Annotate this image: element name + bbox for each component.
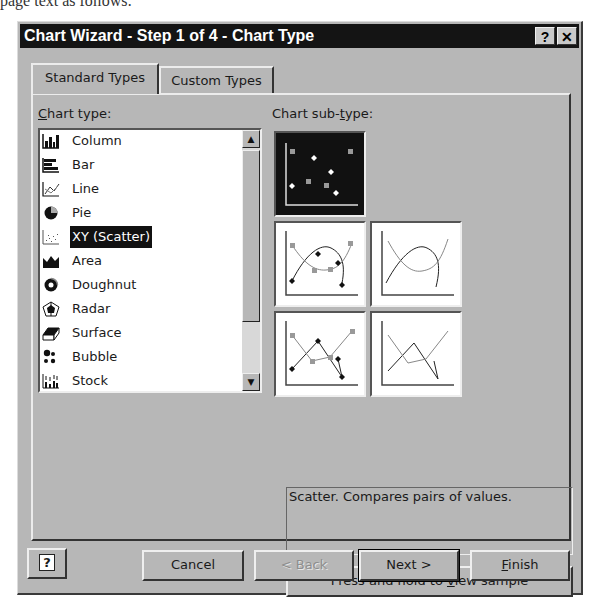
chart-wizard-dialog: Chart Wizard - Step 1 of 4 - Chart Type … xyxy=(17,21,583,595)
list-item-bar[interactable]: Bar xyxy=(42,154,232,176)
list-scrollbar[interactable]: ▲ ▼ xyxy=(242,130,260,391)
subtype-lines-markers[interactable] xyxy=(274,311,366,397)
pie-chart-icon xyxy=(42,205,60,221)
office-assistant-help-button[interactable]: ? xyxy=(27,548,67,579)
title-bar[interactable]: Chart Wizard - Step 1 of 4 - Chart Type … xyxy=(20,24,579,48)
background-page-text: page text as follows: xyxy=(0,0,601,12)
arrow-down-icon: ▼ xyxy=(248,377,255,387)
list-item-column[interactable]: Column xyxy=(42,130,232,152)
close-button[interactable]: ✕ xyxy=(557,27,577,45)
line-chart-icon xyxy=(42,181,60,197)
list-item-line[interactable]: Line xyxy=(42,178,232,200)
scroll-up-button[interactable]: ▲ xyxy=(242,130,260,148)
tab-label: Custom Types xyxy=(171,73,262,88)
arrow-up-icon: ▲ xyxy=(248,134,255,144)
list-item-radar[interactable]: Radar xyxy=(42,298,232,320)
titlebar-help-button[interactable]: ? xyxy=(535,27,555,45)
question-icon: ? xyxy=(541,29,550,45)
lines-icon xyxy=(372,313,460,395)
list-item-surface[interactable]: Surface xyxy=(42,322,232,344)
chart-type-list[interactable]: Column Bar Line Pie XY (Scatter) Area xyxy=(38,128,262,393)
back-button: < Back xyxy=(254,550,354,581)
smoothed-lines-markers-icon xyxy=(276,223,364,305)
dialog-title: Chart Wizard - Step 1 of 4 - Chart Type xyxy=(24,27,314,44)
surface-chart-icon xyxy=(42,325,60,341)
scatter-chart-icon xyxy=(42,229,60,245)
list-item-area[interactable]: Area xyxy=(42,250,232,272)
chart-subtype-label: Chart sub-type: xyxy=(272,106,373,121)
cancel-button[interactable]: Cancel xyxy=(142,550,244,581)
tab-custom-types[interactable]: Custom Types xyxy=(159,66,274,94)
standard-types-panel: Chart type: Chart sub-type: Column Bar L… xyxy=(31,93,571,541)
subtype-smoothed-lines-markers[interactable] xyxy=(274,221,366,307)
area-chart-icon xyxy=(42,253,60,269)
radar-chart-icon xyxy=(42,301,60,317)
list-item-doughnut[interactable]: Doughnut xyxy=(42,274,232,296)
scatter-markers-icon xyxy=(276,133,364,215)
list-item-pie[interactable]: Pie xyxy=(42,202,232,224)
tab-standard-types[interactable]: Standard Types xyxy=(31,63,159,94)
bar-chart-icon xyxy=(42,157,60,173)
list-item-stock[interactable]: Stock xyxy=(42,370,232,392)
close-icon: ✕ xyxy=(561,29,573,45)
subtype-smoothed-lines[interactable] xyxy=(370,221,462,307)
subtype-scatter-markers-only[interactable] xyxy=(274,131,366,217)
stock-chart-icon xyxy=(42,373,60,389)
list-item-bubble[interactable]: Bubble xyxy=(42,346,232,368)
tab-label: Standard Types xyxy=(45,70,145,85)
smoothed-lines-icon xyxy=(372,223,460,305)
next-button[interactable]: Next > xyxy=(359,550,459,581)
column-chart-icon xyxy=(42,133,60,149)
doughnut-chart-icon xyxy=(42,277,60,293)
lines-markers-icon xyxy=(276,313,364,395)
finish-button[interactable]: Finish xyxy=(470,550,570,581)
bubble-chart-icon xyxy=(42,349,60,365)
scroll-down-button[interactable]: ▼ xyxy=(242,373,260,391)
scroll-thumb[interactable] xyxy=(242,150,260,322)
subtype-lines[interactable] xyxy=(370,311,462,397)
chart-description: Scatter. Compares pairs of values. xyxy=(286,487,573,555)
help-bubble-icon: ? xyxy=(39,554,55,571)
chart-type-label: Chart type: xyxy=(38,106,111,121)
list-item-xy-scatter[interactable]: XY (Scatter) xyxy=(42,226,232,248)
